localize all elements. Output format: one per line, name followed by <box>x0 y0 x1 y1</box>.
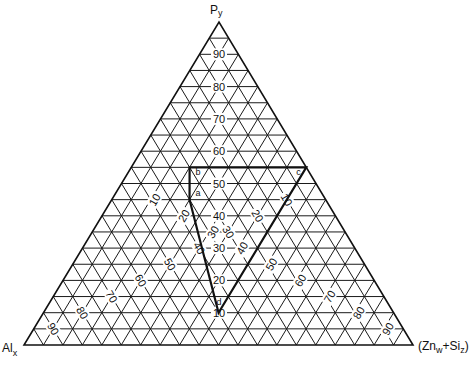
grid-line <box>73 264 122 345</box>
py-label-60: 60 <box>211 145 227 157</box>
svg-text:80: 80 <box>213 81 225 93</box>
grid-line <box>121 103 267 345</box>
svg-text:60: 60 <box>213 145 225 157</box>
znsi-label-20: 20 <box>175 206 193 226</box>
al-label-30: 30 <box>219 222 237 242</box>
znsi-label-90: 90 <box>379 319 397 339</box>
py-label-20: 20 <box>211 274 227 286</box>
region-point-b: b <box>196 167 201 177</box>
al-label-80: 80 <box>73 303 91 323</box>
svg-text:40: 40 <box>213 210 225 222</box>
grid-line <box>394 329 404 345</box>
vertex-label-znsi: (Znw+Siz) <box>418 339 469 355</box>
grid-line <box>209 38 393 345</box>
znsi-label-70: 70 <box>320 287 338 307</box>
svg-text:20: 20 <box>213 274 225 286</box>
al-label-50: 50 <box>161 254 179 274</box>
znsi-label-60: 60 <box>291 270 309 290</box>
py-label-40: 40 <box>211 210 227 222</box>
znsi-label-10: 10 <box>145 190 163 210</box>
al-label-60: 60 <box>132 270 150 290</box>
al-label-90: 90 <box>44 319 62 339</box>
znsi-label-40: 40 <box>233 238 251 258</box>
region-point-c: c <box>296 167 301 177</box>
vertex-label-py: Py <box>210 3 223 18</box>
svg-text:90: 90 <box>213 48 225 60</box>
al-label-20: 20 <box>248 206 266 226</box>
grid-line <box>34 329 44 345</box>
al-label-70: 70 <box>102 287 120 307</box>
ternary-diagram: 1020304050607080901020304050607080901020… <box>0 0 476 366</box>
svg-text:30: 30 <box>213 242 225 254</box>
svg-text:50: 50 <box>213 178 225 190</box>
grid-line <box>238 200 326 345</box>
py-label-90: 90 <box>211 48 227 60</box>
znsi-label-80: 80 <box>350 303 368 323</box>
composition-region-abcd <box>190 167 307 312</box>
grid-line <box>277 232 345 345</box>
region-point-a: a <box>196 188 201 198</box>
grid-line <box>92 232 160 345</box>
znsi-label-30: 30 <box>204 222 222 242</box>
region-point-d: d <box>217 297 222 307</box>
vertex-label-al: Alx <box>2 341 18 358</box>
py-label-50: 50 <box>211 178 227 190</box>
grid-line <box>170 103 316 345</box>
znsi-label-50: 50 <box>262 254 280 274</box>
py-label-70: 70 <box>211 113 227 125</box>
grid-line <box>43 38 228 345</box>
svg-text:70: 70 <box>213 113 225 125</box>
py-label-80: 80 <box>211 81 227 93</box>
py-label-30: 30 <box>211 242 227 254</box>
